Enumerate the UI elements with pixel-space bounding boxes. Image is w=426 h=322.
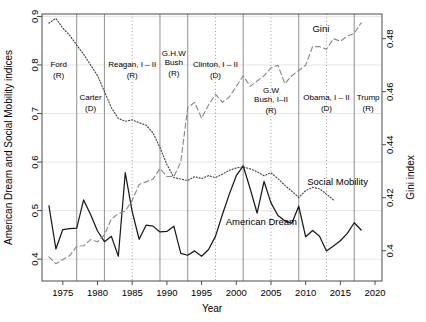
ytick-label-left-0.4: 0.4 <box>29 253 40 266</box>
president-name: Bush, I–II <box>254 95 288 104</box>
president-party: (R) <box>265 106 276 115</box>
annotation-american-dream: American Dream <box>226 216 297 227</box>
ytick-label-left-0.5: 0.5 <box>29 204 40 217</box>
president-name: G.W <box>263 86 279 95</box>
ytick-label-right-0.48: 0.48 <box>384 29 395 48</box>
xtick-label-2015: 2015 <box>330 287 351 298</box>
president-party: (D) <box>85 104 96 113</box>
chart-background <box>0 0 426 322</box>
annotation-gini: Gini <box>312 23 329 34</box>
president-name: Trump <box>357 93 380 102</box>
chart-canvas: 1975198019851990199520002005201020152020… <box>0 0 426 322</box>
president-name: Carter <box>79 93 102 102</box>
chart-root: 1975198019851990199520002005201020152020… <box>0 0 426 322</box>
president-name: G.H.W <box>162 49 186 58</box>
president-party: (R) <box>168 69 179 78</box>
xtick-label-1995: 1995 <box>191 287 212 298</box>
president-party: (D) <box>210 71 221 80</box>
ytick-label-left-0.8: 0.8 <box>29 58 40 71</box>
president-party: (R) <box>127 71 138 80</box>
xtick-label-1975: 1975 <box>52 287 73 298</box>
x-axis-title: Year <box>202 303 223 314</box>
president-party: (R) <box>363 104 374 113</box>
ytick-label-left-0.9: 0.9 <box>29 10 40 23</box>
ytick-label-left-0.7: 0.7 <box>29 107 40 120</box>
ytick-label-right-0.4: 0.4 <box>384 244 395 257</box>
ytick-label-right-0.46: 0.46 <box>384 82 395 101</box>
xtick-label-2005: 2005 <box>260 287 281 298</box>
ytick-label-right-0.44: 0.44 <box>384 135 395 154</box>
xtick-label-1985: 1985 <box>122 287 143 298</box>
y-axis-right-title: Gini index <box>405 155 416 199</box>
xtick-label-1980: 1980 <box>87 287 108 298</box>
president-name: Obama, I – II <box>303 93 349 102</box>
xtick-label-2000: 2000 <box>226 287 247 298</box>
y-axis-left-title: American Dream and Social Mobility indic… <box>3 50 14 245</box>
president-party: (D) <box>321 104 332 113</box>
annotation-social-mobility: Social Mobility <box>307 176 368 187</box>
president-name: Ford <box>50 60 66 69</box>
xtick-label-2010: 2010 <box>295 287 316 298</box>
president-name: Reagan, I – II <box>108 60 156 69</box>
president-name: Clinton, I – II <box>193 60 238 69</box>
ytick-label-left-0.6: 0.6 <box>29 155 40 168</box>
xtick-label-1990: 1990 <box>156 287 177 298</box>
xtick-label-2020: 2020 <box>364 287 385 298</box>
ytick-label-right-0.42: 0.42 <box>384 188 395 207</box>
president-party: (R) <box>53 71 64 80</box>
president-name: Bush <box>165 58 183 67</box>
